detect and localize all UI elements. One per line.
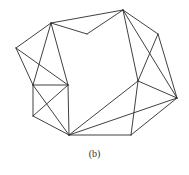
edge-A-D <box>51 23 87 34</box>
edge-A-BTR <box>51 23 68 85</box>
edge-RU-MR <box>138 34 158 81</box>
edge-A-BTL <box>33 23 51 85</box>
edge-BTR-BBL <box>33 85 68 116</box>
edge-MR-FR <box>138 81 177 98</box>
edge-T-MR <box>123 10 138 81</box>
edge-FR-BR <box>131 98 177 135</box>
edge-FR-B <box>69 98 177 135</box>
edge-MR-BR <box>131 81 138 135</box>
edges-group <box>16 10 177 135</box>
edge-T-RU <box>123 10 158 34</box>
edge-BTR-B <box>68 85 69 135</box>
edge-MR-B <box>69 81 138 135</box>
edge-T-FR <box>123 10 177 98</box>
edge-BTL-B <box>33 85 69 135</box>
edge-BBL-B <box>33 116 69 135</box>
figure-caption: (b) <box>0 148 189 159</box>
edge-A-L <box>16 23 51 48</box>
edge-A-T <box>51 10 123 23</box>
edge-RU-FR <box>158 34 177 98</box>
